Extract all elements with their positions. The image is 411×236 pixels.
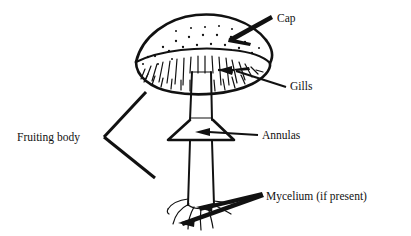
cap-wart: [188, 36, 190, 38]
bracket-lower-arm: [104, 137, 155, 178]
mushroom-figure: Cap Gills Annulas Mycelium (if present) …: [0, 0, 411, 236]
cap-wart: [251, 52, 253, 54]
fruiting-body-bracket: [104, 92, 155, 178]
mycelium-arrowhead-lower: [178, 218, 195, 227]
cap-wart: [162, 46, 164, 48]
cap-wart: [175, 30, 177, 32]
hypha-tip: [167, 209, 169, 214]
mycelium-leader: [178, 192, 264, 227]
gill-line: [232, 77, 235, 88]
annulus-outline: [168, 120, 234, 140]
cap-wart: [171, 58, 173, 60]
cap-wart: [196, 44, 198, 46]
annulas-leader-line: [209, 132, 258, 135]
hypha: [168, 199, 188, 209]
gill-line: [190, 57, 191, 73]
cap-wart: [218, 25, 220, 27]
cap-wart: [147, 56, 149, 58]
label-fruiting-body: Fruiting body: [17, 131, 80, 144]
annulas-leader: [195, 128, 258, 136]
gill-line: [171, 79, 172, 89]
cap-wart: [154, 55, 156, 57]
cap-wart: [210, 43, 212, 45]
mushroom-diagram: Cap Gills Annulas Mycelium (if present) …: [0, 0, 411, 236]
cap-wart: [175, 40, 177, 42]
gill-line: [161, 78, 163, 87]
label-cap: Cap: [277, 12, 296, 25]
mycelium-arrowhead-upper: [196, 203, 213, 212]
cap-wart: [202, 34, 204, 36]
stipe-left-edge-upper: [190, 72, 192, 120]
cap-wart: [238, 47, 240, 49]
gill-line: [256, 70, 263, 72]
stipe-lower: [188, 141, 214, 209]
gill-line: [223, 79, 225, 90]
cap-wart: [204, 26, 206, 28]
cap-wart: [182, 46, 184, 48]
annulas-arrowhead: [195, 128, 210, 136]
cap-arrowhead: [228, 38, 251, 46]
label-annulas: Annulas: [262, 129, 301, 141]
cap-wart: [168, 50, 170, 52]
stipe-right-edge-lower: [212, 141, 214, 205]
cap-wart: [224, 44, 226, 46]
cap-wart: [142, 63, 144, 65]
stipe-right-edge-upper: [211, 72, 212, 120]
stipe-left-edge-lower: [188, 141, 190, 205]
gill-line: [183, 58, 184, 85]
cap-wart: [216, 34, 218, 36]
annulus-ring: [168, 120, 234, 140]
stipe-upper: [190, 72, 212, 120]
gills-leader-taper: [234, 67, 250, 71]
cap-wart: [231, 28, 233, 30]
gills-leader-line: [236, 71, 286, 87]
gill-line: [167, 61, 170, 83]
cap-wart: [258, 47, 260, 49]
bracket-upper-arm: [104, 92, 146, 137]
gill-line: [212, 56, 213, 73]
label-gills: Gills: [290, 80, 313, 92]
gill-line: [175, 59, 177, 84]
label-mycelium: Mycelium (if present): [266, 190, 367, 203]
cap-wart: [190, 27, 192, 29]
gill-line: [214, 80, 215, 91]
